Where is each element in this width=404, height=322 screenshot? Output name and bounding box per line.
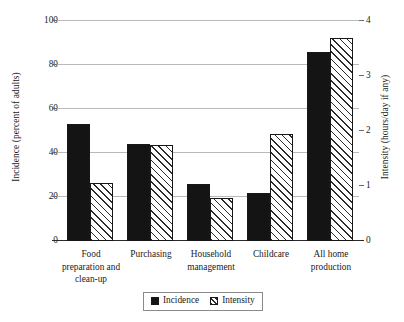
y-axis-right-tick-2: 2 [366,126,404,135]
bar-group-food-preparation [61,20,121,241]
bar-group-all-home-production [301,20,361,241]
tickmark-left-100 [52,20,57,21]
chart-legend: Incidence Intensity [143,292,263,311]
legend-item-intensity: Intensity [210,296,255,305]
legend-swatch-hatched-square-icon [210,297,218,305]
tickmark-left-40 [52,152,57,153]
bar-intensity-food-preparation [90,183,113,241]
y-axis-right-tick-1: 1 [366,181,404,190]
bar-incidence-purchasing [127,144,150,241]
x-axis-label-line1: All home [279,248,383,261]
y-axis-right-tick-3: 3 [366,71,404,80]
x-axis-label-all-home-production: All home production [279,248,383,273]
plot-area [57,20,359,241]
bar-intensity-household-management [210,198,233,241]
chart-figure: Incidence (percent of adults) Intensity … [0,0,404,322]
tickmark-left-20 [52,196,57,197]
bar-intensity-all-home-production [330,38,353,242]
x-axis-label-line2: production [279,261,383,274]
y-axis-right-tick-0: 0 [366,236,404,245]
bar-group-childcare [241,20,301,241]
bar-intensity-childcare [270,134,293,241]
x-axis-label-line2: management [159,261,263,274]
y-axis-right-tick-4: 4 [366,16,404,25]
tickmark-left-60 [52,108,57,109]
x-axis-label-line3: clean-up [39,273,143,286]
bar-incidence-household-management [187,184,210,241]
x-axis-label-line2: preparation and [39,261,143,274]
bar-incidence-food-preparation [67,124,90,241]
bar-incidence-childcare [247,193,270,241]
legend-item-incidence: Incidence [151,296,199,305]
bar-intensity-purchasing [150,145,173,241]
bar-incidence-all-home-production [307,52,330,241]
legend-label-incidence: Incidence [163,296,199,305]
legend-swatch-solid-square-icon [151,297,159,305]
y-axis-left-title: Incidence (percent of adults) [11,47,21,207]
bar-group-purchasing [121,20,181,241]
tickmark-left-80 [52,64,57,65]
legend-label-intensity: Intensity [222,296,255,305]
bar-group-household-management [181,20,241,241]
